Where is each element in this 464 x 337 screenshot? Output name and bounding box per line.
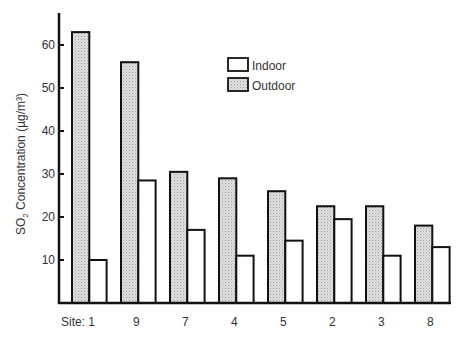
x-tick-label: 4 — [231, 315, 238, 329]
bar-indoor-site-4 — [236, 256, 253, 303]
y-tick-label: 60 — [42, 38, 56, 52]
y-axis-label: SO2 Concentration (µg/m³) — [14, 93, 30, 235]
bar-indoor-site-8 — [432, 247, 449, 303]
x-tick-label: 8 — [427, 315, 434, 329]
bar-outdoor-site-5 — [268, 191, 285, 303]
bar-outdoor-site-4 — [219, 178, 236, 303]
x-tick-label: 2 — [329, 315, 336, 329]
x-tick-label: 9 — [133, 315, 140, 329]
bar-indoor-site-1 — [89, 260, 106, 303]
x-tick-label: 5 — [280, 315, 287, 329]
y-tick-label: 50 — [42, 81, 56, 95]
y-tick-label: 10 — [42, 253, 56, 267]
y-tick-label: 20 — [42, 210, 56, 224]
bar-outdoor-site-1 — [72, 32, 89, 303]
bar-outdoor-site-8 — [415, 226, 432, 303]
legend-label-indoor: Indoor — [252, 59, 286, 73]
y-tick-label: 40 — [42, 124, 56, 138]
x-tick-label: Site: 1 — [61, 315, 95, 329]
bar-indoor-site-9 — [138, 180, 155, 303]
bar-outdoor-site-2 — [317, 206, 334, 303]
x-tick-label: 3 — [378, 315, 385, 329]
y-tick-label: 30 — [42, 167, 56, 181]
bar-indoor-site-7 — [187, 230, 204, 303]
bar-indoor-site-2 — [334, 219, 351, 303]
legend-swatch-indoor — [228, 58, 248, 71]
legend-label-outdoor: Outdoor — [252, 79, 295, 93]
x-tick-labels-group: Site: 19745238 — [61, 315, 434, 329]
legend-swatch-outdoor — [228, 78, 248, 91]
bar-indoor-site-5 — [285, 241, 302, 303]
bar-outdoor-site-9 — [121, 62, 138, 303]
x-tick-label: 7 — [182, 315, 189, 329]
bar-outdoor-site-7 — [170, 172, 187, 303]
bar-indoor-site-3 — [383, 256, 400, 303]
bar-outdoor-site-3 — [366, 206, 383, 303]
bar-chart: 102030405060 Site: 19745238 IndoorOutdoo… — [0, 0, 464, 337]
legend: IndoorOutdoor — [228, 58, 295, 93]
y-ticks-group: 102030405060 — [42, 38, 64, 267]
